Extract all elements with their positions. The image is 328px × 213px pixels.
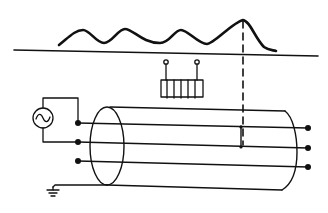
ac-source-icon <box>33 98 78 142</box>
conductors <box>78 123 308 167</box>
cable-fault-diagram <box>0 0 328 213</box>
cable-shield <box>90 107 297 190</box>
fault-connection <box>239 125 242 148</box>
coil-icon <box>161 60 203 98</box>
ground-icon <box>47 185 107 196</box>
right-terminals <box>305 125 311 170</box>
